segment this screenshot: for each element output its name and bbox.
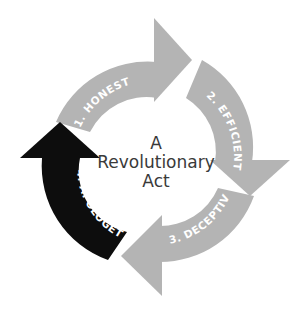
center-title: A Revolutionary Act	[97, 133, 215, 191]
center-title-line-1: A	[150, 133, 162, 153]
step-arrow-1-honest: 1. HONEST	[56, 18, 192, 132]
center-title-line-2: Revolutionary	[97, 152, 215, 172]
step-arrow-4-apologetic: 4. APOLOGETIC	[0, 0, 127, 260]
step-arrow-2-efficient: 2. EFFICIENT	[186, 60, 290, 196]
center-title-line-3: Act	[142, 171, 170, 191]
revolutionary-act-cycle-diagram: 1. HONEST 2. EFFICIENT 3. DECEPTIVE 4. A…	[0, 0, 305, 318]
arrowhead-3	[121, 215, 162, 296]
step-label-3: 3. DECEPTIVE	[0, 0, 232, 246]
arrowhead-1	[154, 18, 192, 102]
